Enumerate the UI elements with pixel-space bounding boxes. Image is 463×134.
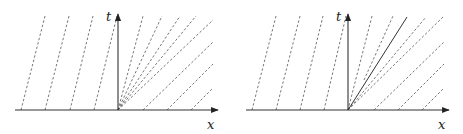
right-x-axis-label: x [438, 117, 446, 132]
characteristic-line [300, 16, 323, 110]
characteristic-line [94, 16, 117, 110]
characteristic-line [118, 20, 213, 110]
characteristic-line [348, 16, 444, 110]
characteristics-diagram: t x t x [0, 0, 463, 134]
characteristic-line [348, 17, 426, 110]
characteristic-line [118, 16, 180, 110]
characteristic-line [45, 16, 69, 110]
characteristic-line [398, 64, 444, 110]
left-t-axis-label: t [106, 9, 112, 24]
characteristic-line [143, 42, 213, 110]
characteristic-line [21, 16, 45, 110]
characteristic-line [191, 88, 213, 110]
characteristic-line [324, 16, 346, 110]
left-x-axis-label: x [207, 117, 215, 132]
characteristic-line [167, 64, 213, 110]
characteristic-line [118, 16, 162, 110]
characteristic-line [364, 16, 393, 80]
right-diagram [246, 14, 449, 110]
characteristic-line [422, 88, 444, 110]
characteristic-line [276, 16, 300, 110]
characteristic-line [252, 16, 276, 110]
characteristic-line [70, 16, 93, 110]
right-t-axis-label: t [336, 9, 342, 24]
left-diagram [15, 14, 218, 110]
characteristic-line [118, 16, 143, 110]
shock-line [348, 17, 407, 110]
